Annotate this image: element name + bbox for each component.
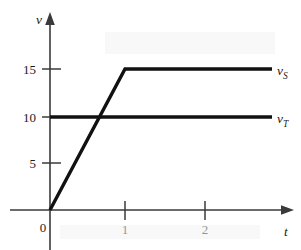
line-chart: 15 10 5 0 1 2 v t vS vT (0, 0, 301, 250)
series-label-vS: vS (277, 63, 288, 81)
x-axis-label: t (284, 224, 289, 239)
series-line-vS (50, 69, 272, 210)
figure-container: 15 10 5 0 1 2 v t vS vT (0, 0, 301, 250)
y-tick-label-10: 10 (23, 110, 36, 125)
series-label-vT: vT (277, 111, 289, 129)
x-tick-label-0: 0 (40, 220, 47, 235)
x-tick-label-2: 2 (202, 222, 209, 237)
y-axis-label: v (36, 12, 42, 27)
y-tick-label-15: 15 (23, 62, 36, 77)
x-tick-label-1: 1 (122, 222, 129, 237)
series-label-vS-subscript: S (283, 71, 288, 81)
y-axis-arrowhead (45, 12, 55, 25)
series-label-vT-subscript: T (283, 119, 289, 129)
y-axis (45, 12, 55, 250)
x-axis-arrowhead (281, 205, 294, 215)
y-tick-label-5: 5 (30, 156, 37, 171)
